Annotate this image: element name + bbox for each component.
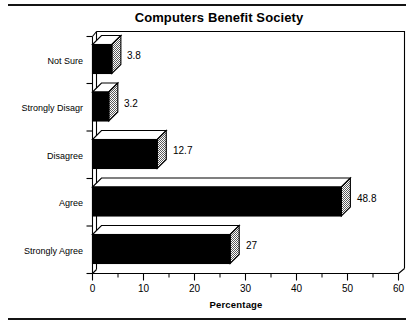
- bar-top-face: [93, 178, 351, 187]
- bar-chart: Not Sure Strongly Disagr Disagree Agree …: [0, 0, 414, 331]
- bar-strongly-disagr[interactable]: [93, 83, 118, 121]
- bar-not-sure[interactable]: [93, 36, 121, 74]
- x-axis-ticks: [93, 274, 399, 281]
- bar-value-label: 12.7: [173, 145, 193, 156]
- y-axis-labels: Not Sure Strongly Disagr Disagree Agree …: [21, 56, 83, 256]
- x-tick-label: 30: [240, 283, 252, 294]
- chart-canvas: Not Sure Strongly Disagr Disagree Agree …: [0, 0, 414, 331]
- category-label: Agree: [59, 198, 83, 208]
- x-axis-title: Percentage: [0, 299, 414, 310]
- category-label: Not Sure: [47, 56, 83, 66]
- bar-front-face: [93, 235, 231, 264]
- bar-value-label: 48.8: [357, 193, 377, 204]
- bar-front-face: [93, 92, 109, 121]
- bar-value-label: 3.2: [124, 98, 138, 109]
- x-tick-label: 10: [138, 283, 150, 294]
- bar-top-face: [93, 131, 167, 140]
- bar-value-label: 27: [246, 240, 258, 251]
- category-label: Strongly Agree: [24, 246, 83, 256]
- x-tick-label: 20: [189, 283, 201, 294]
- x-tick-label: 40: [291, 283, 303, 294]
- category-label: Strongly Disagr: [21, 103, 83, 113]
- bars-group: [93, 36, 351, 264]
- bar-front-face: [93, 140, 158, 169]
- category-label: Disagree: [47, 151, 83, 161]
- x-tick-label: 50: [342, 283, 354, 294]
- bar-agree[interactable]: [93, 178, 351, 216]
- bar-front-face: [93, 45, 112, 74]
- x-tick-label: 0: [90, 283, 96, 294]
- bar-front-face: [93, 187, 342, 216]
- bar-disagree[interactable]: [93, 131, 167, 169]
- y-axis-ticks: [87, 37, 93, 274]
- bar-value-label: 3.8: [127, 50, 141, 61]
- bar-top-face: [93, 226, 240, 235]
- x-axis-labels: 0 10 20 30 40 50 60: [90, 283, 405, 294]
- x-tick-label: 60: [393, 283, 405, 294]
- bar-strongly-agree[interactable]: [93, 226, 240, 264]
